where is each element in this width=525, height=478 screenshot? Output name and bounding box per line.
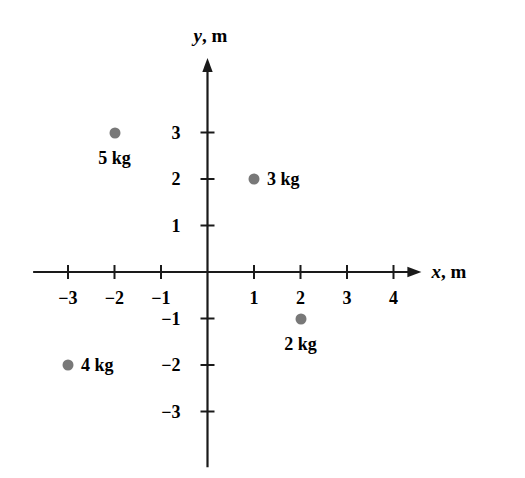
mass-point-marker	[295, 313, 306, 324]
x-axis-variable: x	[431, 261, 441, 282]
mass-label: 3 kg	[267, 170, 300, 188]
x-tick-label: −2	[105, 289, 124, 307]
x-tick-label: 2	[296, 289, 305, 307]
mass-position-diagram: −3−2−11234321−1−2−3 5 kg3 kg2 kg4 kg y, …	[0, 0, 525, 478]
axis-lines	[33, 58, 421, 467]
y-axis-separator: ,	[202, 25, 207, 46]
mass-point-marker	[109, 127, 120, 138]
x-tick-label: 1	[250, 289, 259, 307]
x-tick-label: 3	[343, 289, 352, 307]
x-tick-label: −3	[58, 289, 77, 307]
y-axis-label: y, m	[194, 26, 228, 45]
y-tick-label: −2	[161, 356, 180, 374]
mass-label: 2 kg	[284, 335, 317, 353]
x-tick-label: 4	[389, 289, 398, 307]
y-tick-label: −3	[161, 403, 180, 421]
mass-point-marker	[249, 174, 260, 185]
y-tick-label: 3	[172, 124, 181, 142]
x-tick-label: −1	[151, 289, 170, 307]
x-axis-arrowhead	[407, 267, 421, 277]
mass-label: 4 kg	[81, 356, 114, 374]
coordinate-axes	[0, 0, 525, 478]
y-tick-label: −1	[161, 310, 180, 328]
y-tick-label: 2	[172, 170, 181, 188]
y-axis-arrowhead	[202, 58, 212, 72]
mass-point-marker	[63, 360, 74, 371]
y-tick-label: 1	[172, 217, 181, 235]
x-axis-unit: m	[450, 261, 466, 282]
x-axis-label: x, m	[431, 262, 466, 281]
y-axis-unit: m	[212, 25, 228, 46]
x-axis-separator: ,	[441, 261, 446, 282]
mass-label: 5 kg	[98, 149, 131, 167]
